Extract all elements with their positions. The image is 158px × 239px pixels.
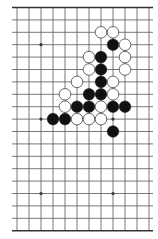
star-point [39,118,42,121]
white-stone [119,64,131,76]
black-stone [59,113,71,125]
black-stone [95,76,107,88]
white-stone [71,113,83,125]
black-stone [83,101,95,113]
white-stone [119,51,131,63]
white-stone [107,27,119,39]
black-stone [71,101,83,113]
black-stone [83,89,95,101]
star-point [39,43,42,46]
black-stone [107,39,119,51]
black-stone [107,126,119,138]
black-stone [47,113,59,125]
white-stone [119,39,131,51]
white-stone [59,89,71,101]
star-point [111,118,114,121]
white-stone [95,27,107,39]
white-stone [71,76,83,88]
white-stone [95,113,107,125]
go-board [0,0,158,239]
star-point [39,192,42,195]
white-stone [107,76,119,88]
black-stone [95,51,107,63]
white-stone [83,64,95,76]
black-stone [119,101,131,113]
black-stone [107,101,119,113]
black-stone [95,64,107,76]
black-stone [95,89,107,101]
white-stone [83,51,95,63]
white-stone [83,113,95,125]
star-point [111,192,114,195]
white-stone [59,101,71,113]
white-stone [107,89,119,101]
white-stone [95,101,107,113]
